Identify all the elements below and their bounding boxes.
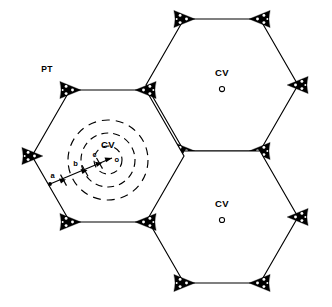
central-vein-label-left: CV xyxy=(101,139,115,150)
lobule-canvas: CV CV xyxy=(0,0,332,307)
hepatic-lobule-diagram: CV CV xyxy=(0,0,332,307)
zone-point-label-b: b xyxy=(73,159,78,168)
portal-triad-label: PT xyxy=(41,64,53,74)
zone-point-label-o: o xyxy=(115,155,120,164)
central-vein-label-upper-right: CV xyxy=(215,67,229,78)
zonation-axis-origin-dot xyxy=(48,182,52,186)
zone-point-label-c: c xyxy=(92,150,96,159)
central-vein-label-lower-right: CV xyxy=(215,198,229,209)
